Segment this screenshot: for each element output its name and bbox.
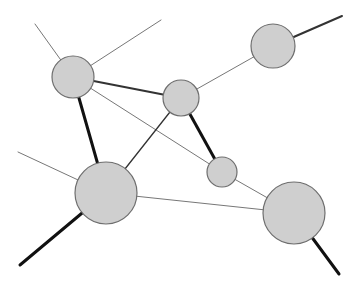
network-diagram bbox=[0, 0, 358, 289]
nodes-layer bbox=[52, 24, 325, 244]
node-c bbox=[251, 24, 295, 68]
node-a bbox=[52, 56, 94, 98]
node-d bbox=[207, 157, 237, 187]
node-e bbox=[75, 162, 137, 224]
node-b bbox=[163, 80, 199, 116]
node-f bbox=[263, 182, 325, 244]
